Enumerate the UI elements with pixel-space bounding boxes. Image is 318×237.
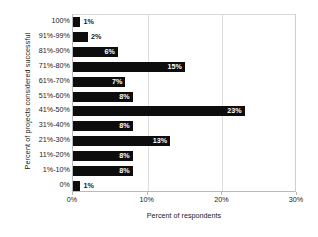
y-axis-tick-labels: 100%91%-99%81%-90%71%-80%61%-70%51%-60%4… xyxy=(22,14,70,192)
bar-value-label: 8% xyxy=(119,166,129,176)
bar-value-label: 1% xyxy=(83,181,93,191)
bar-row: 23% xyxy=(73,106,297,116)
bar xyxy=(73,106,245,116)
y-axis-tick-label: 0% xyxy=(22,181,70,189)
x-axis-tick-label: 10% xyxy=(139,195,153,205)
bar-row: 2% xyxy=(73,32,297,42)
bar-row: 1% xyxy=(73,181,297,191)
y-axis-tick-label: 91%-99% xyxy=(22,32,70,40)
plot-area: 1%2%6%15%7%8%23%8%13%8%8%1% xyxy=(72,14,296,192)
bar-value-label: 2% xyxy=(91,32,101,42)
y-axis-tick-label: 81%-90% xyxy=(22,47,70,55)
bar-row: 8% xyxy=(73,151,297,161)
bar-row: 8% xyxy=(73,92,297,102)
x-axis-tick-mark xyxy=(296,192,297,195)
bar-value-label: 6% xyxy=(104,47,114,57)
bar-chart: Percent of projects considered successfu… xyxy=(0,0,318,237)
x-axis-tick-label: 20% xyxy=(214,195,228,205)
bar-value-label: 8% xyxy=(119,151,129,161)
y-axis-tick-label: 51%-60% xyxy=(22,92,70,100)
x-axis-tick-label: 0% xyxy=(67,195,77,205)
bar xyxy=(73,32,88,42)
x-axis-title: Percent of respondents xyxy=(72,211,296,220)
bar xyxy=(73,17,80,27)
bar-row: 8% xyxy=(73,166,297,176)
y-axis-tick-label: 21%-30% xyxy=(22,136,70,144)
x-axis-tick-labels: 0%10%20%30% xyxy=(72,195,296,207)
bar-row: 6% xyxy=(73,47,297,57)
bar xyxy=(73,181,80,191)
bar-value-label: 15% xyxy=(168,62,182,72)
y-axis-tick-label: 1%-10% xyxy=(22,166,70,174)
x-axis-tick-mark xyxy=(147,192,148,195)
bar-value-label: 8% xyxy=(119,121,129,131)
bar-row: 7% xyxy=(73,77,297,87)
bar-row: 15% xyxy=(73,62,297,72)
bar-value-label: 13% xyxy=(153,136,167,146)
bar-value-label: 23% xyxy=(227,106,241,116)
bar-row: 1% xyxy=(73,17,297,27)
y-axis-tick-label: 11%-20% xyxy=(22,151,70,159)
bar-row: 8% xyxy=(73,121,297,131)
x-axis-tick-mark xyxy=(221,192,222,195)
bar-value-label: 1% xyxy=(83,17,93,27)
y-axis-tick-label: 71%-80% xyxy=(22,62,70,70)
x-axis-tick-label: 30% xyxy=(289,195,303,205)
y-axis-tick-label: 100% xyxy=(22,17,70,25)
bar-value-label: 7% xyxy=(112,77,122,87)
y-axis-tick-label: 41%-50% xyxy=(22,106,70,114)
bar-row: 13% xyxy=(73,136,297,146)
x-axis-tick-mark xyxy=(72,192,73,195)
bar-value-label: 8% xyxy=(119,92,129,102)
y-axis-tick-label: 61%-70% xyxy=(22,77,70,85)
y-axis-tick-label: 31%-40% xyxy=(22,121,70,129)
